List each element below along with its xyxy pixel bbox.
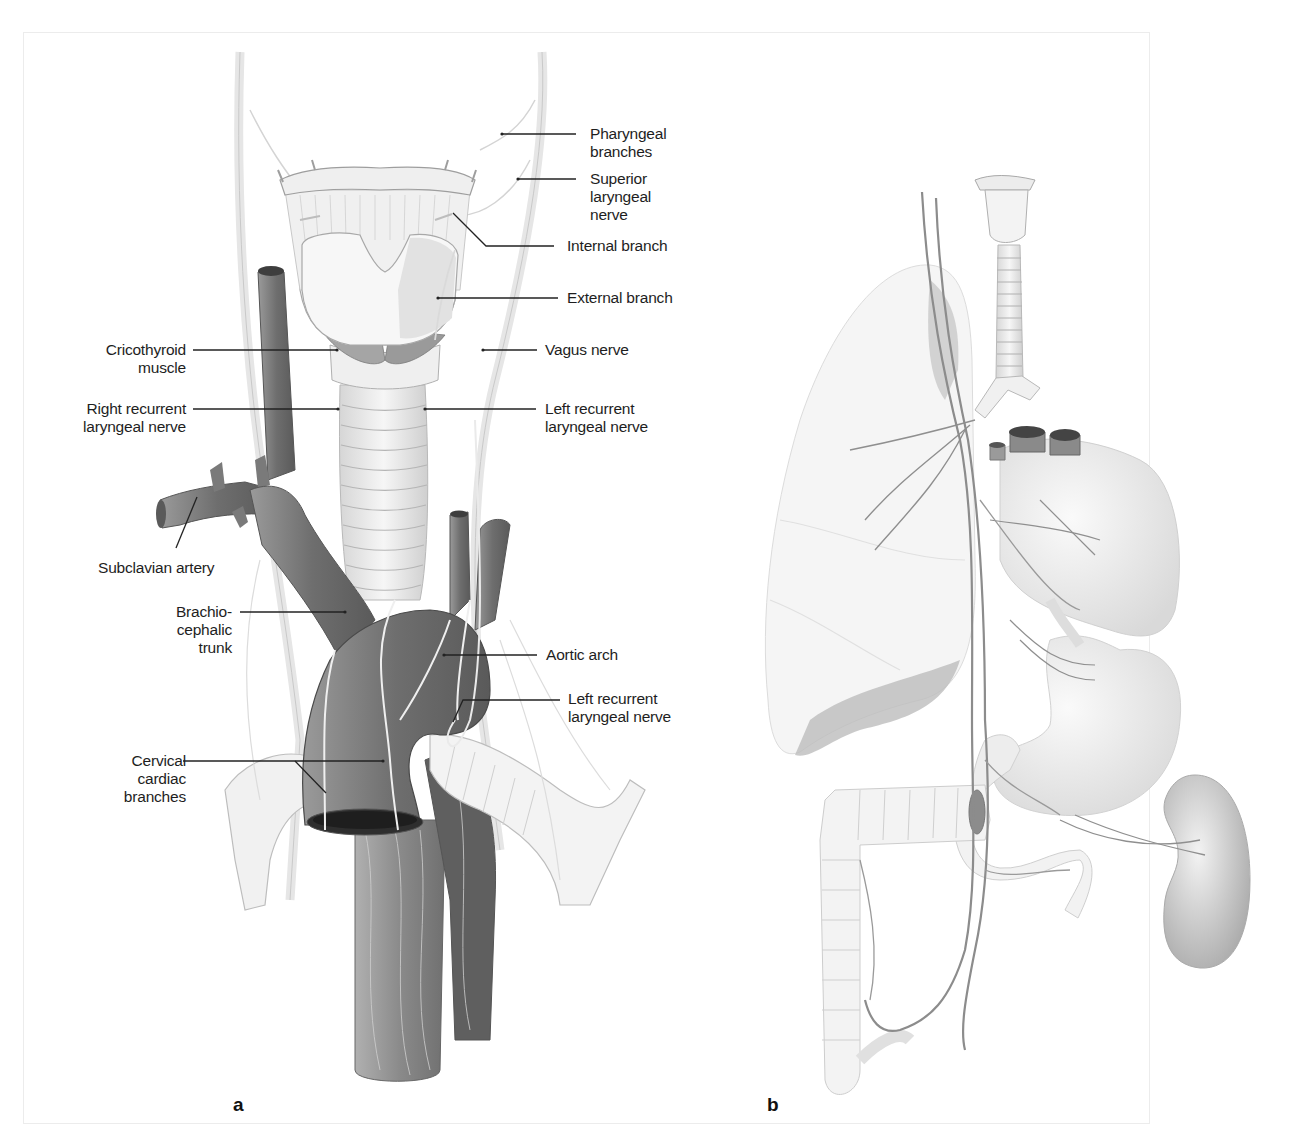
label-brachiocephalic-trunk: Brachio- cephalic trunk: [120, 603, 232, 657]
label-cervical-cardiac-branches: Cervical cardiac branches: [80, 752, 186, 806]
label-superior-laryngeal-nerve: Superior laryngeal nerve: [590, 170, 651, 224]
label-subclavian-artery: Subclavian artery: [98, 559, 214, 577]
label-line: trunk: [120, 639, 232, 657]
label-line: branches: [80, 788, 186, 806]
label-line: Cricothyroid: [60, 341, 186, 359]
panel-a-artwork: [156, 52, 645, 1081]
label-line: Cervical: [80, 752, 186, 770]
label-line: cephalic: [120, 621, 232, 639]
panel-letter-b: b: [767, 1094, 779, 1116]
label-line: laryngeal: [590, 188, 651, 206]
label-right-recurrent-laryngeal-nerve: Right recurrent laryngeal nerve: [40, 400, 186, 436]
label-pharyngeal-branches: Pharyngeal branches: [590, 125, 666, 161]
label-line: nerve: [590, 206, 651, 224]
panel-letter-a: a: [233, 1094, 244, 1116]
label-line: Right recurrent: [40, 400, 186, 418]
label-line: laryngeal nerve: [568, 708, 671, 726]
label-vagus-nerve: Vagus nerve: [545, 341, 629, 359]
label-aortic-arch: Aortic arch: [546, 646, 618, 664]
label-line: Brachio-: [120, 603, 232, 621]
label-internal-branch: Internal branch: [567, 237, 667, 255]
label-line: Left recurrent: [568, 690, 671, 708]
label-line: muscle: [60, 359, 186, 377]
label-left-recurrent-laryngeal-nerve-lower: Left recurrent laryngeal nerve: [568, 690, 671, 726]
label-left-recurrent-laryngeal-nerve-upper: Left recurrent laryngeal nerve: [545, 400, 648, 436]
label-line: branches: [590, 143, 666, 161]
label-line: Superior: [590, 170, 651, 188]
label-line: Pharyngeal: [590, 125, 666, 143]
label-cricothyroid-muscle: Cricothyroid muscle: [60, 341, 186, 377]
label-line: Left recurrent: [545, 400, 648, 418]
label-line: cardiac: [80, 770, 186, 788]
label-line: laryngeal nerve: [545, 418, 648, 436]
panel-b-artwork: [765, 176, 1250, 1095]
label-external-branch: External branch: [567, 289, 673, 307]
label-line: laryngeal nerve: [40, 418, 186, 436]
